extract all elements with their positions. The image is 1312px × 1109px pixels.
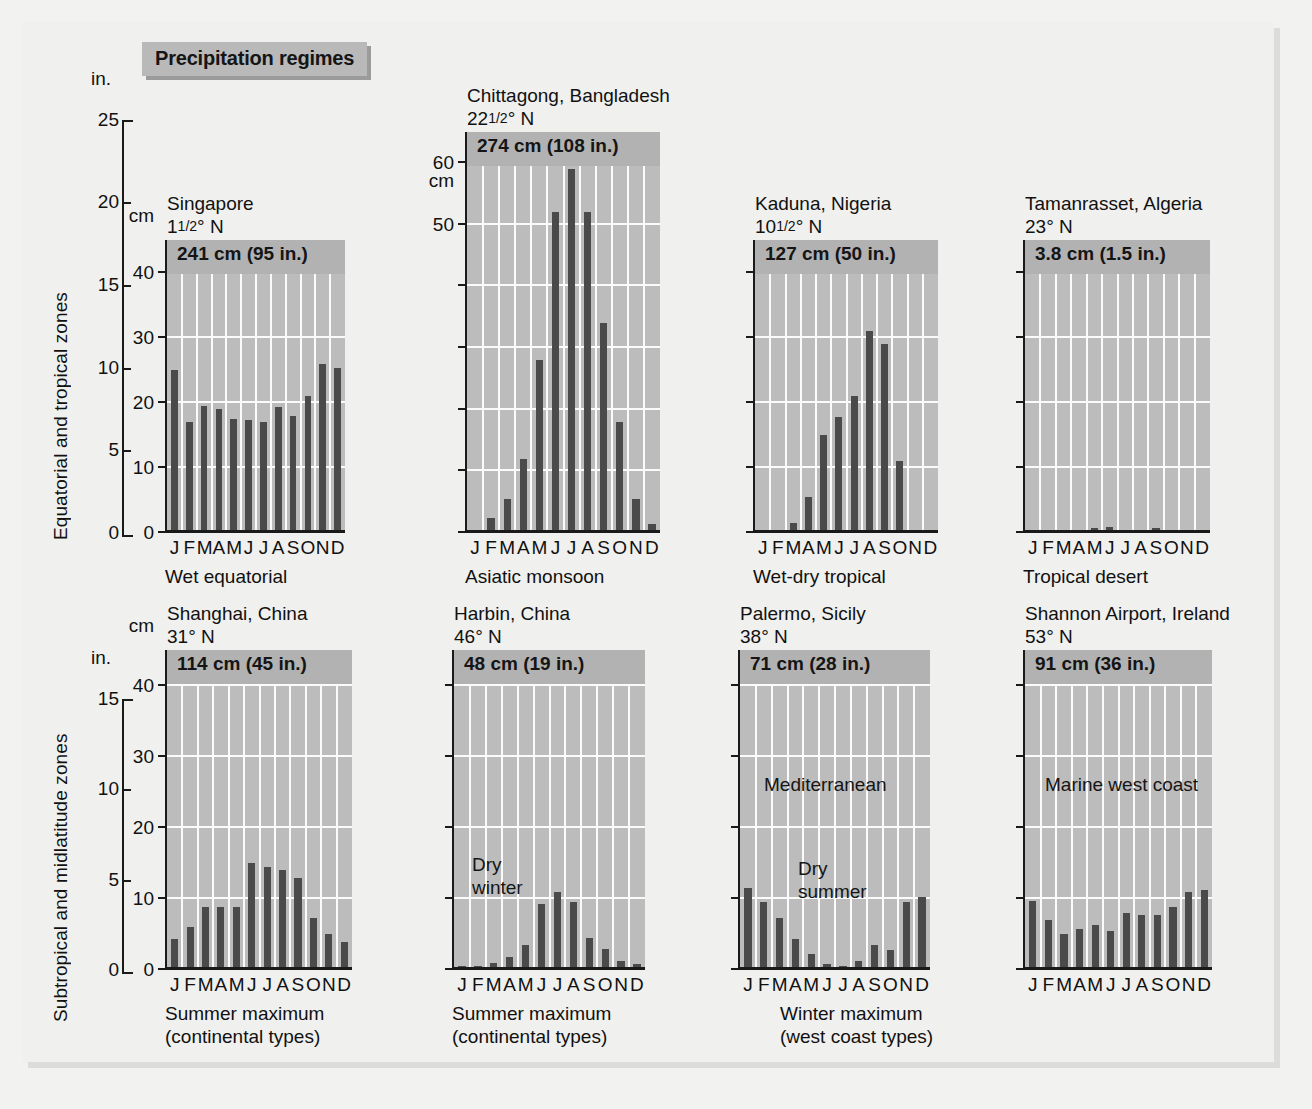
- month-label-F-1: F: [1041, 974, 1057, 996]
- month-label-J-6: J: [835, 974, 851, 996]
- vertical-gridline: [563, 132, 565, 533]
- bar-A-7: [275, 407, 282, 533]
- inches-axis-tick-label-10: 10: [79, 357, 119, 379]
- cm-axis-tick: [731, 755, 740, 757]
- caption-line-1: Summer maximum: [165, 1002, 324, 1025]
- vertical-gridline: [1163, 240, 1165, 533]
- horizontal-gridline: [167, 826, 352, 828]
- horizontal-gridline: [740, 826, 930, 828]
- panel-title-tamanrasset: Tamanrasset, Algeria23° N: [1025, 193, 1202, 240]
- cm-axis-spine: [165, 650, 167, 970]
- panel-title-shanghai: Shanghai, China31° N: [167, 603, 308, 650]
- vertical-gridline: [913, 650, 915, 970]
- cm-axis-shanghai: 010203040cm: [157, 650, 167, 970]
- cm-axis-spine: [452, 650, 454, 970]
- cm-axis-tick: [1016, 336, 1025, 338]
- bar-A-7: [866, 331, 873, 533]
- month-label-A-3: A: [787, 974, 803, 996]
- horizontal-gridline: [454, 826, 645, 828]
- vertical-gridline: [1180, 650, 1182, 970]
- note-dry-summer: Drysummer: [798, 858, 867, 904]
- month-axis-labels: JFMAMJJASOND: [1025, 970, 1212, 996]
- inches-axis-unit: in.: [91, 68, 111, 90]
- panel-title-palermo: Palermo, Sicily38° N: [740, 603, 866, 650]
- bar-N-10: [632, 499, 639, 533]
- regime-label-chittagong: Asiatic monsoon: [465, 565, 604, 588]
- station-latitude: 23° N: [1025, 216, 1202, 238]
- figure-title-badge: Precipitation regimes: [142, 42, 367, 76]
- station-name: Tamanrasset, Algeria: [1025, 193, 1202, 215]
- bar-A-7: [570, 902, 577, 970]
- annual-total-label: 127 cm (50 in.): [765, 243, 896, 265]
- vertical-gridline: [517, 650, 519, 970]
- vertical-gridline: [336, 650, 338, 970]
- vertical-gridline: [549, 650, 551, 970]
- cm-axis-tamanrasset: [1015, 240, 1025, 533]
- inches-axis-tick: [122, 789, 131, 791]
- vertical-gridline: [469, 650, 471, 970]
- caption-line-2: (west coast types): [780, 1025, 933, 1048]
- horizontal-gridline: [755, 401, 938, 403]
- bar-A-3: [792, 939, 799, 970]
- vertical-gridline: [1195, 650, 1197, 970]
- cm-axis-tick-label-40: 40: [112, 675, 154, 697]
- bar-O-9: [616, 422, 623, 533]
- vertical-gridline: [274, 650, 276, 970]
- inches-axis-tick: [122, 450, 131, 452]
- vertical-gridline: [846, 240, 848, 533]
- bar-M-2: [1060, 934, 1067, 970]
- bar-A-7: [279, 870, 286, 970]
- month-label-A-3: A: [801, 537, 816, 559]
- cm-axis-tick: [445, 755, 454, 757]
- annual-total-label: 48 cm (19 in.): [464, 653, 584, 675]
- cm-axis-tick: [158, 531, 167, 533]
- note-dry-winter: Drywinter: [472, 854, 523, 900]
- cm-axis-tick: [458, 469, 467, 471]
- month-label-M-4: M: [226, 537, 241, 559]
- bar-S-8: [290, 416, 297, 533]
- month-label-A-7: A: [851, 974, 867, 996]
- month-label-O-9: O: [892, 537, 907, 559]
- month-label-M-4: M: [803, 974, 819, 996]
- bar-F-1: [187, 927, 194, 970]
- month-label-J-0: J: [1025, 537, 1040, 559]
- cm-axis-tick: [746, 271, 755, 273]
- station-name: Shannon Airport, Ireland: [1025, 603, 1230, 625]
- vertical-gridline: [314, 240, 316, 533]
- vertical-gridline: [866, 650, 868, 970]
- vertical-gridline: [498, 132, 500, 533]
- plot-area-palermo: 71 cm (28 in.)MediterraneanDrysummer: [740, 650, 930, 970]
- panel-harbin: Harbin, China46° N48 cm (19 in.)Drywinte…: [454, 650, 645, 970]
- vertical-gridline: [755, 650, 757, 970]
- cm-axis-tick: [1016, 897, 1025, 899]
- cm-axis-tick: [746, 466, 755, 468]
- panel-chittagong: Chittagong, Bangladesh221/2° N274 cm (10…: [467, 132, 660, 533]
- bar-N-10: [903, 902, 910, 970]
- cm-axis-tick-label-10: 10: [112, 457, 154, 479]
- caption-line-2: (continental types): [452, 1025, 611, 1048]
- month-label-J-0: J: [454, 974, 470, 996]
- bar-D-11: [918, 897, 925, 970]
- cm-axis-tick: [746, 401, 755, 403]
- vertical-gridline: [320, 650, 322, 970]
- month-label-F-1: F: [483, 537, 499, 559]
- month-label-A-7: A: [275, 974, 290, 996]
- cm-axis-spine: [753, 240, 755, 533]
- month-label-D-11: D: [336, 974, 351, 996]
- bar-M-4: [536, 360, 543, 533]
- month-label-M-4: M: [531, 537, 547, 559]
- month-axis-labels: JFMAMJJASOND: [467, 533, 660, 559]
- month-label-M-2: M: [499, 537, 515, 559]
- horizontal-gridline: [167, 897, 352, 899]
- bar-J-6: [568, 169, 575, 533]
- bar-A-7: [1138, 915, 1145, 970]
- horizontal-gridline: [755, 336, 938, 338]
- month-label-J-5: J: [819, 974, 835, 996]
- cm-axis-tick: [1016, 826, 1025, 828]
- month-label-J-0: J: [167, 974, 182, 996]
- station-latitude: 53° N: [1025, 626, 1230, 648]
- vertical-gridline: [211, 240, 213, 533]
- inches-axis-tick-label-25: 25: [79, 109, 119, 131]
- month-label-O-9: O: [300, 537, 315, 559]
- month-label-A-7: A: [1133, 537, 1148, 559]
